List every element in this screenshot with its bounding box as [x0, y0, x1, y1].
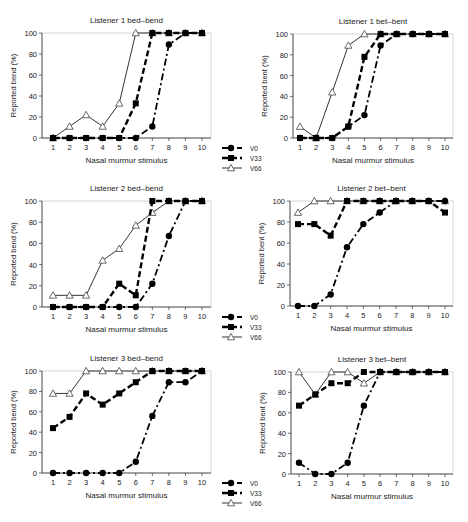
v33-square-marker: [344, 198, 350, 204]
x-tick-label: 10: [198, 143, 206, 152]
y-tick-label: 20: [29, 282, 37, 291]
x-tick-label: 3: [84, 143, 88, 152]
y-tick-label: 80: [278, 388, 286, 397]
v0-circle-marker: [393, 198, 399, 204]
x-tick-label: 2: [67, 143, 71, 152]
x-tick-label: 9: [427, 311, 431, 320]
v66-triangle-marker: [116, 367, 123, 373]
v0-circle-marker: [83, 470, 89, 476]
y-tick-label: 20: [277, 281, 285, 290]
v0-circle-marker: [83, 135, 89, 141]
x-tick-label: 8: [411, 143, 415, 152]
v33-square-marker: [345, 380, 351, 386]
v0-circle-marker: [426, 369, 432, 375]
v66-triangle-marker: [294, 209, 301, 215]
x-tick-label: 6: [134, 312, 138, 321]
v0-circle-marker: [133, 304, 139, 310]
x-tick-label: 3: [84, 478, 88, 487]
v0-circle-marker: [442, 198, 448, 204]
x-tick-label: 10: [441, 143, 449, 152]
v33-square-marker: [328, 233, 334, 239]
figure-six-panel-identification-curves: Listener 1 bed–bend020406080100123456789…: [0, 0, 468, 522]
v33-square-marker: [361, 369, 367, 375]
v0-circle-marker: [116, 304, 122, 310]
legend: V0V33V66: [222, 145, 262, 172]
legend-label-v0: V0: [250, 314, 258, 321]
v0-circle-marker: [66, 304, 72, 310]
legend-square-icon: [228, 324, 234, 330]
x-tick-label: 1: [51, 143, 55, 152]
v33-square-marker: [133, 379, 139, 385]
x-tick-label: 5: [362, 143, 366, 152]
x-tick-label: 7: [150, 478, 154, 487]
v33-square-marker: [116, 390, 122, 396]
v0-circle-marker: [328, 471, 334, 477]
v66-triangle-marker: [99, 257, 106, 263]
v33-square-marker: [166, 368, 172, 374]
x-axis-label: Nasal murmur stimulus: [86, 156, 168, 165]
v33-square-marker: [360, 198, 366, 204]
x-tick-label: 6: [134, 143, 138, 152]
x-tick-label: 2: [314, 143, 318, 152]
v0-circle-marker: [199, 30, 205, 36]
x-tick-label: 3: [329, 479, 333, 488]
x-tick-label: 4: [101, 478, 105, 487]
y-axis-label: Reported bend (%): [9, 222, 18, 286]
y-tick-label: 80: [29, 50, 37, 59]
series-line-v66: [299, 372, 445, 394]
legend-label-v66: V66: [250, 165, 262, 172]
y-tick-label: 40: [29, 428, 37, 437]
y-tick-label: 60: [29, 239, 37, 248]
legend-label-v33: V33: [250, 324, 262, 331]
chart-title: Listener 2 bet–bent: [337, 184, 406, 193]
v0-circle-marker: [329, 135, 335, 141]
v0-circle-marker: [50, 304, 56, 310]
v33-square-marker: [116, 281, 122, 287]
series-line-v33: [53, 371, 202, 428]
x-tick-label: 6: [378, 479, 382, 488]
x-tick-label: 9: [427, 143, 431, 152]
v33-square-marker: [133, 100, 139, 106]
series-v0: [50, 30, 205, 141]
v66-triangle-marker: [83, 111, 90, 117]
y-tick-label: 0: [33, 469, 37, 478]
v0-circle-marker: [99, 135, 105, 141]
x-tick-label: 4: [346, 143, 350, 152]
x-tick-label: 3: [84, 312, 88, 321]
v0-circle-marker: [133, 135, 139, 141]
v0-circle-marker: [182, 198, 188, 204]
plot-area: [42, 201, 211, 307]
v33-square-marker: [295, 221, 301, 227]
legend-circle-icon: [228, 145, 234, 151]
v66-triangle-marker: [116, 100, 123, 106]
v0-circle-marker: [83, 304, 89, 310]
chart-title: Listener 1 bet–bent: [339, 17, 408, 26]
y-tick-label: 100: [275, 30, 288, 39]
x-tick-label: 8: [410, 479, 414, 488]
v0-circle-marker: [344, 460, 350, 466]
y-tick-label: 100: [24, 367, 37, 376]
chart-panel-2: Listener 1 bet–bent020406080100123456789…: [260, 17, 453, 165]
v33-square-marker: [100, 402, 106, 408]
chart-title: Listener 1 bed–bend: [90, 16, 163, 25]
x-tick-label: 9: [183, 478, 187, 487]
v66-triangle-marker: [49, 390, 56, 396]
y-tick-label: 100: [272, 197, 285, 206]
x-tick-label: 7: [394, 479, 398, 488]
chart-panel-6: Listener 3 bet–bent020406080100123456789…: [258, 355, 453, 501]
v0-circle-marker: [116, 135, 122, 141]
y-axis-label: Reported bend (%): [9, 53, 18, 117]
legend-label-v33: V33: [250, 490, 262, 497]
legend-circle-icon: [228, 480, 234, 486]
x-axis-label: Nasal murmur stimulus: [331, 324, 413, 333]
v0-circle-marker: [149, 280, 155, 286]
v0-circle-marker: [116, 470, 122, 476]
x-tick-label: 3: [329, 311, 333, 320]
legend-square-icon: [228, 490, 234, 496]
x-tick-label: 5: [117, 143, 121, 152]
series-line-v0: [298, 201, 445, 306]
v33-square-marker: [296, 403, 302, 409]
v0-circle-marker: [393, 31, 399, 37]
y-tick-label: 0: [281, 302, 285, 311]
y-tick-label: 60: [280, 72, 288, 81]
